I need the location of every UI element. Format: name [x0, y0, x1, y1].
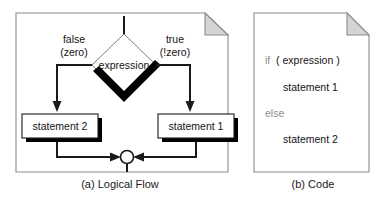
code-keyword-else: else	[265, 107, 284, 119]
panel-a-corner-fold-icon	[205, 13, 228, 35]
caption-panel-b: (b) Code	[248, 178, 378, 190]
merge-circle-node	[121, 151, 134, 164]
figure-container: false (zero) true (!zero) expression sta…	[0, 0, 383, 209]
code-expression-text: ( expression )	[270, 54, 339, 66]
false-label-line2: (zero)	[60, 46, 87, 58]
statement-2-label: statement 2	[33, 120, 88, 132]
true-label-line2: (!zero)	[160, 46, 190, 58]
panel-b-corner-fold-icon	[347, 13, 369, 35]
code-line-statement-1: statement 1	[283, 81, 338, 93]
false-label-line1: false	[63, 33, 85, 45]
code-line-if: if ( expression )	[265, 54, 340, 66]
decision-label: expression	[99, 59, 150, 71]
caption-panel-a: (a) Logical Flow	[0, 178, 240, 190]
true-label-line1: true	[166, 33, 184, 45]
code-line-statement-2: statement 2	[283, 133, 338, 145]
statement-1-label: statement 1	[169, 120, 224, 132]
